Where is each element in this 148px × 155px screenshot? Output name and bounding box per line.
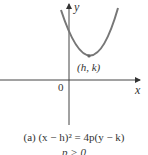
- figure-caption: (a) (x − h)² = 4p(y − k): [0, 131, 148, 143]
- vertex-label: (h, k): [77, 61, 100, 73]
- origin-label: 0: [58, 81, 64, 93]
- parabola-curve: [61, 8, 118, 56]
- figure-caption-condition: p > 0: [0, 146, 148, 155]
- x-axis-label: x: [135, 83, 140, 98]
- vertex-point: [87, 54, 90, 57]
- y-axis-label: y: [74, 0, 79, 15]
